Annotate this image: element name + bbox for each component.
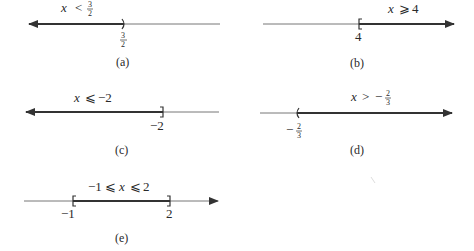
endpoint-label: 4 (355, 29, 362, 44)
number-line-a: x < 3 2 3 2 (a) (29, 0, 220, 69)
caption-b: (b) (350, 56, 364, 70)
endpoint-sign: − (286, 122, 293, 137)
endpoint-num: 3 (121, 31, 125, 40)
inequality-num: 2 (386, 89, 390, 98)
inequality-sign: − (375, 89, 382, 104)
number-line-figure: x < 3 2 3 2 (a) x ⩾ 4 4 (b) x ⩽ −2 −2 (c… (0, 0, 474, 251)
inequality-den: 2 (88, 9, 92, 18)
inequality-op: > (362, 89, 369, 104)
caption-a: (a) (116, 55, 129, 69)
inequality-var: x (73, 90, 80, 105)
inequality-op2: ⩽ (130, 179, 141, 194)
caption-e: (e) (115, 231, 128, 245)
endpoint-label: −2 (150, 118, 164, 133)
number-line-e: −1 ⩽ x ⩽ 2 −1 2 (e) (24, 179, 218, 245)
inequality-left: −1 (88, 179, 102, 194)
number-line-b: x ⩾ 4 4 (b) (263, 1, 454, 70)
caption-d: (d) (350, 143, 364, 157)
number-line-d: x > − 2 3 − 2 3 (d) (260, 89, 452, 157)
inequality-op: ⩽ (85, 90, 96, 105)
endpoint-den: 3 (297, 131, 301, 140)
inequality-var: x (118, 179, 125, 194)
caption-c: (c) (115, 143, 128, 157)
endpoint-label-right: 2 (166, 206, 173, 221)
inequality-var: x (387, 1, 394, 16)
endpoint-num: 2 (297, 122, 301, 131)
inequality-value: 4 (412, 1, 419, 16)
inequality-num: 3 (88, 0, 92, 9)
number-line-c: x ⩽ −2 −2 (c) (26, 90, 219, 157)
inequality-right: 2 (143, 179, 150, 194)
inequality-den: 3 (386, 98, 390, 107)
endpoint-den: 2 (121, 40, 125, 49)
inequality-var: x (60, 0, 67, 15)
inequality-var: x (350, 89, 357, 104)
inequality-op1: ⩽ (105, 179, 116, 194)
scan-artifact (371, 177, 375, 183)
endpoint-label-left: −1 (61, 206, 75, 221)
inequality-value: −2 (98, 90, 112, 105)
inequality-op: ⩾ (399, 1, 410, 16)
inequality-op: < (75, 0, 82, 15)
